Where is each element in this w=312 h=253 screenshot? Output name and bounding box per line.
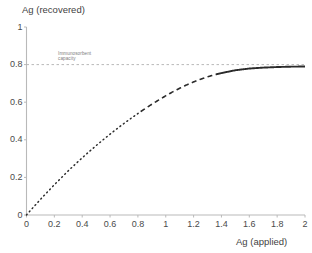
x-tick-label-0.6: 0.6 — [98, 219, 122, 229]
x-tick-label-2: 2 — [293, 219, 312, 229]
y-tick-label-0.4: 0.4 — [1, 134, 23, 144]
y-tick-label-0.6: 0.6 — [1, 97, 23, 107]
y-tick-label-0: 0 — [1, 210, 23, 220]
plot-canvas — [0, 0, 312, 253]
x-tick-label-1.6: 1.6 — [237, 219, 261, 229]
curve-segment-solid — [216, 66, 305, 74]
y-tick-label-1: 1 — [1, 22, 23, 32]
chart-figure: ˙ ˙ ˙ Ag (recovered) Ag (applied) Immuno… — [0, 0, 312, 253]
x-tick-label-1.4: 1.4 — [209, 219, 233, 229]
x-tick-label-0.8: 0.8 — [126, 219, 150, 229]
data-curve-group — [27, 66, 306, 215]
x-tick-label-1: 1 — [154, 219, 178, 229]
x-tick-label-1.2: 1.2 — [182, 219, 206, 229]
x-tick-label-1.8: 1.8 — [265, 219, 289, 229]
y-tick-label-0.8: 0.8 — [1, 59, 23, 69]
y-tick-label-0.2: 0.2 — [1, 172, 23, 182]
curve-segment-dashed — [141, 74, 216, 111]
x-axis-title: Ag (applied) — [236, 236, 287, 247]
x-tick-label-0.2: 0.2 — [42, 219, 66, 229]
y-axis-title: Ag (recovered) — [22, 4, 85, 15]
top-edge-cropped-text: ˙ ˙ ˙ — [6, 0, 86, 2]
annotation-line-2: capacity — [58, 56, 91, 61]
curve-segment-dotted — [27, 112, 141, 215]
x-tick-label-0: 0 — [15, 219, 39, 229]
x-tick-label-0.4: 0.4 — [70, 219, 94, 229]
immunosorbent-capacity-annotation: Immunosorbent capacity — [58, 51, 91, 61]
